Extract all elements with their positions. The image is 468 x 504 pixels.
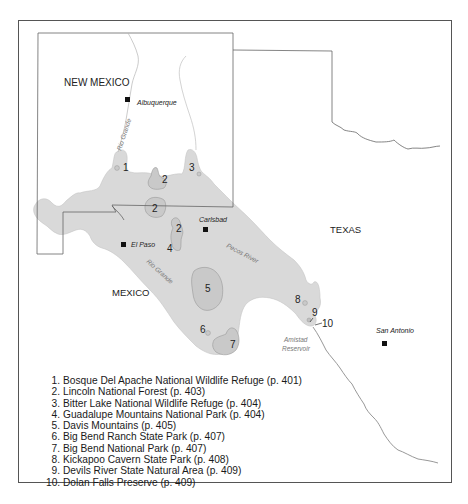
legend-item: 2.Lincoln National Forest (p. 403) xyxy=(46,386,302,397)
site-marker-kickapoo xyxy=(303,301,308,306)
city-marker-el-paso xyxy=(121,242,126,247)
legend-item: 9.Devils River State Natural Area (p. 40… xyxy=(46,465,302,476)
leader-line-10 xyxy=(315,323,322,325)
site-number-8: 8 xyxy=(295,294,301,305)
site-number-7: 7 xyxy=(230,339,236,350)
city-marker-albuquerque xyxy=(125,97,130,102)
site-number-2a: 2 xyxy=(162,174,168,185)
desert-region-shading xyxy=(34,149,321,354)
label-rio-grande-north: Rio Grande xyxy=(115,117,132,151)
site-marker-big-bend-ranch xyxy=(206,331,211,336)
site-number-3: 3 xyxy=(189,162,195,173)
texas-north-border xyxy=(233,50,440,149)
legend-item: 3.Bitter Lake National Wildlife Refuge (… xyxy=(46,398,302,409)
city-marker-carlsbad xyxy=(203,227,208,232)
pecos-river-upper xyxy=(179,56,196,150)
label-el-paso: El Paso xyxy=(131,241,155,248)
label-san-antonio: San Antonio xyxy=(376,327,414,334)
legend-item: 4.Guadalupe Mountains National Park (p. … xyxy=(46,409,302,420)
legend-item: 10.Dolan Falls Preserve (p. 409) xyxy=(46,477,302,488)
label-amistad: Amistad xyxy=(283,336,308,343)
legend-item: 8.Kickapoo Cavern State Park (p. 408) xyxy=(46,454,302,465)
legend-item: 7.Big Bend National Park (p. 407) xyxy=(46,443,302,454)
label-mexico: MEXICO xyxy=(112,287,149,298)
label-texas: TEXAS xyxy=(330,224,361,235)
map-legend: 1.Bosque Del Apache National Wildlife Re… xyxy=(46,375,302,488)
site-number-4: 4 xyxy=(167,243,173,254)
site-marker-bitter-lake xyxy=(197,172,201,176)
legend-item: 6.Big Bend Ranch State Park (p. 407) xyxy=(46,431,302,442)
legend-item: 1.Bosque Del Apache National Wildlife Re… xyxy=(46,375,302,386)
site-number-6: 6 xyxy=(200,324,206,335)
site-number-9: 9 xyxy=(312,307,318,318)
label-new-mexico: NEW MEXICO xyxy=(64,77,130,88)
site-number-1: 1 xyxy=(123,162,129,173)
site-number-5: 5 xyxy=(205,283,211,294)
site-number-2c: 2 xyxy=(176,223,182,234)
site-number-2b: 2 xyxy=(152,203,158,214)
site-marker-bosque xyxy=(115,166,120,171)
label-albuquerque: Albuquerque xyxy=(136,99,177,107)
city-marker-san-antonio xyxy=(382,341,387,346)
label-carlsbad: Carlsbad xyxy=(199,216,228,223)
site-number-10: 10 xyxy=(322,318,334,329)
rio-grande-lower xyxy=(313,327,438,463)
label-reservoir: Reservoir xyxy=(282,345,311,352)
legend-item: 5.Davis Mountains (p. 405) xyxy=(46,420,302,431)
